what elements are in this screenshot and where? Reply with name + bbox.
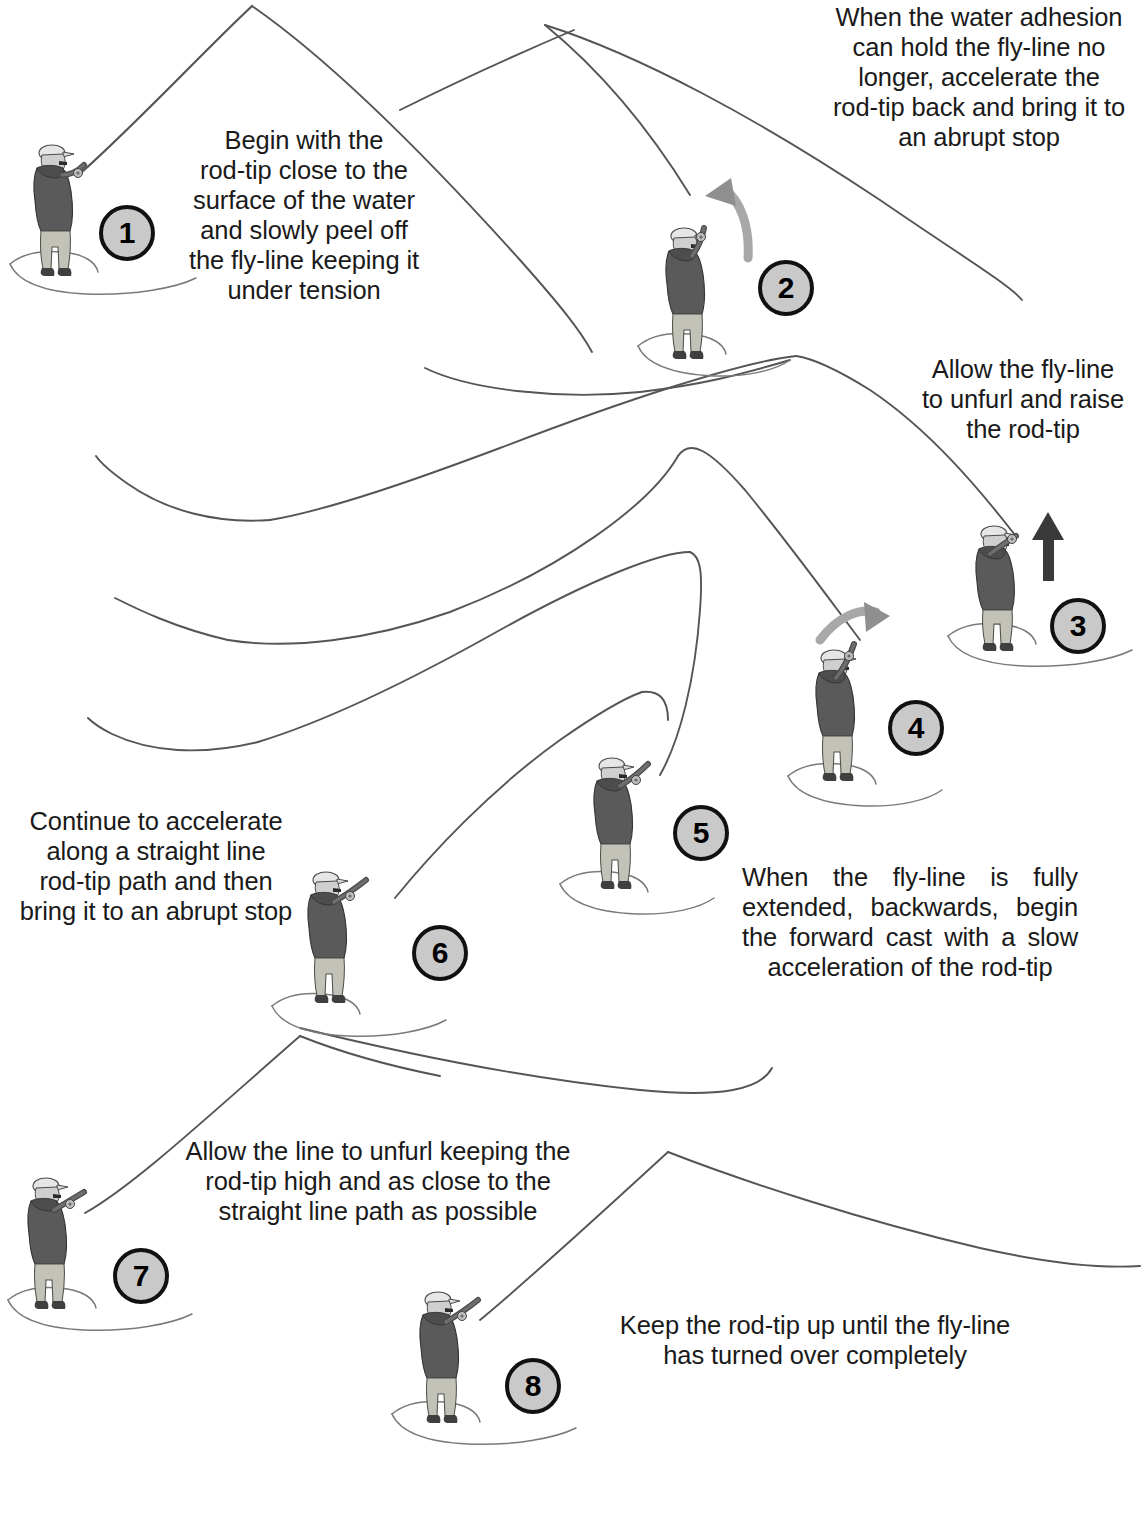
step-caption-8: Keep the rod-tip up until the fly-line h… (596, 1310, 1034, 1370)
forward-cast-arrow-icon (820, 602, 890, 640)
fly-line-step-2c (400, 30, 574, 110)
fly-line-step-6c (300, 1028, 772, 1093)
step-caption-7: Allow the line to unfurl keeping the rod… (168, 1136, 588, 1226)
fly-line-step-4 (678, 448, 860, 640)
fly-line-step-8b (668, 1152, 1140, 1267)
fly-line-step-7b (300, 1036, 440, 1076)
step-badge-6[interactable]: 6 (412, 925, 468, 981)
fly-line-step-2-tail (425, 360, 790, 395)
fly-line-step-3c (96, 456, 270, 521)
fly-line-step-4c (115, 598, 228, 640)
angler-figure-step-2 (650, 218, 728, 368)
angler-figure-step-8 (404, 1282, 482, 1432)
step-badge-5[interactable]: 5 (673, 805, 729, 861)
step-caption-1: Begin with the rod-tip close to the surf… (170, 125, 438, 305)
step-badge-1[interactable]: 1 (99, 205, 155, 261)
fly-line-step-5 (660, 552, 701, 775)
step-badge-4[interactable]: 4 (888, 700, 944, 756)
angler-figure-step-5 (578, 748, 656, 898)
angler-figure-step-7 (12, 1168, 90, 1318)
fly-line-step-5b (258, 552, 690, 742)
step-badge-8[interactable]: 8 (505, 1358, 561, 1414)
fly-line-step-3b (270, 356, 796, 520)
fly-line-step-2 (545, 25, 690, 195)
step-badge-3[interactable]: 3 (1050, 598, 1106, 654)
step-badge-2[interactable]: 2 (758, 260, 814, 316)
step-caption-5: When the fly-line is fully extended, bac… (742, 862, 1078, 982)
fly-line-step-6b (642, 692, 668, 720)
step-caption-3: Allow the fly-line to unfurl and raise t… (900, 354, 1146, 444)
step-badge-7[interactable]: 7 (113, 1248, 169, 1304)
angler-figure-step-4 (800, 640, 878, 790)
step-caption-6: Continue to accelerate along a straight … (8, 806, 304, 926)
step-caption-2: When the water adhesion can hold the fly… (810, 2, 1148, 152)
fly-line-step-4b (228, 456, 678, 644)
angler-figure-step-1 (18, 135, 96, 285)
fly-line-step-5c (88, 718, 258, 750)
angler-figure-step-3 (960, 508, 1038, 658)
fly-casting-diagram: 1 2 3 4 5 6 7 8 Begin with the rod-tip c… (0, 0, 1148, 1514)
